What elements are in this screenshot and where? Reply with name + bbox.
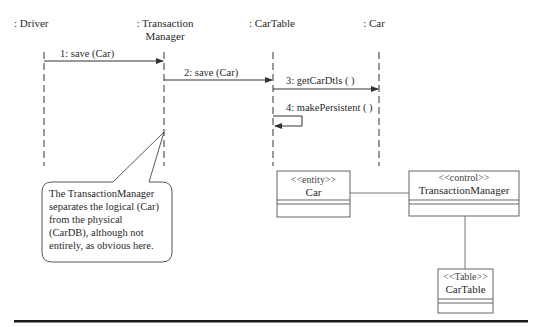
lifeline-car-label: : Car bbox=[363, 17, 385, 29]
message-3-label: 3: getCarDtls ( ) bbox=[286, 75, 355, 87]
bottom-rule bbox=[14, 320, 528, 323]
lifeline-transactionmanager-label-line2: Manager bbox=[145, 30, 184, 42]
lifeline-transactionmanager-label: : Transaction bbox=[136, 17, 194, 29]
message-2-label: 2: save (Car) bbox=[184, 67, 239, 79]
note-line-4: (CarDB), although not bbox=[49, 227, 144, 239]
class-cartable-stereotype: <<Table>> bbox=[443, 271, 488, 282]
note-line-2: separates the logical (Car) bbox=[49, 201, 159, 213]
class-car: <<entity>> Car bbox=[277, 171, 350, 217]
message-4-self-arrow bbox=[273, 116, 302, 126]
class-transactionmanager-stereotype: <<control>> bbox=[439, 172, 490, 183]
note-line-5: entirely, as obvious here. bbox=[49, 240, 154, 251]
note-line-1: The TransactionManager bbox=[49, 188, 155, 199]
lifeline-cartable-label: : CarTable bbox=[249, 17, 295, 29]
class-transactionmanager: <<control>> TransactionManager bbox=[409, 171, 519, 216]
lifeline-driver-label: : Driver bbox=[14, 17, 49, 29]
class-cartable: <<Table>> CarTable bbox=[438, 269, 493, 313]
class-cartable-name: CarTable bbox=[445, 283, 485, 295]
sequence-and-class-diagram: : Driver : Transaction Manager : CarTabl… bbox=[0, 0, 542, 327]
note-line-3: from the physical bbox=[49, 214, 123, 225]
message-4-label: 4: makePersistent ( ) bbox=[286, 102, 373, 114]
class-car-name: Car bbox=[306, 186, 322, 198]
class-transactionmanager-name: TransactionManager bbox=[419, 184, 510, 196]
class-car-stereotype: <<entity>> bbox=[291, 174, 337, 185]
message-1-label: 1: save (Car) bbox=[60, 48, 115, 60]
